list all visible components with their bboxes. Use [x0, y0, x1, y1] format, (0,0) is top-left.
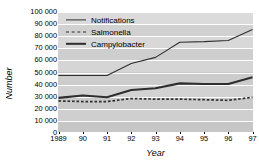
legend-line-swatch-icon [66, 27, 86, 37]
y-tick-label: 80 000 [14, 32, 57, 40]
y-tick-label: 90 000 [14, 20, 57, 28]
legend-label: Campylobacter [91, 40, 145, 49]
y-tick-label: 70 000 [14, 44, 57, 52]
x-axis-title: Year [58, 148, 253, 158]
x-tick-mark [180, 132, 181, 134]
x-tick-mark [156, 132, 157, 134]
x-tick-label: 91 [103, 134, 111, 143]
legend-item-campylobacter: Campylobacter [66, 38, 186, 50]
x-axis-tick-labels: 19899091929394959697 [58, 134, 253, 146]
x-tick-label: 96 [224, 134, 232, 143]
x-tick-mark [253, 132, 254, 134]
x-tick-mark [228, 132, 229, 134]
y-tick-label: 60 000 [14, 56, 57, 64]
x-tick-label: 94 [176, 134, 184, 143]
legend-line-swatch-icon [66, 39, 86, 49]
y-tick-label: 100 000 [14, 8, 57, 16]
x-tick-label: 97 [248, 134, 256, 143]
x-tick-mark [107, 132, 108, 134]
x-tick-label: 1989 [50, 134, 66, 143]
x-tick-label: 95 [200, 134, 208, 143]
x-tick-label: 92 [127, 134, 135, 143]
y-tick-label: 40 000 [14, 81, 57, 89]
y-tick-label: 50 000 [14, 69, 57, 77]
y-tick-label: 30 000 [14, 93, 57, 101]
y-axis-tick-labels: 010 00020 00030 00040 00050 00060 00070 … [14, 12, 57, 133]
x-tick-mark [131, 132, 132, 134]
y-tick-label: 20 000 [14, 105, 57, 113]
legend-item-salmonella: Salmonella [66, 26, 186, 38]
x-tick-mark [83, 132, 84, 134]
x-tick-label: 90 [79, 134, 87, 143]
legend: NotificationsSalmonellaCampylobacter [66, 14, 186, 50]
legend-item-notifications: Notifications [66, 14, 186, 26]
x-tick-mark [204, 132, 205, 134]
chart-figure: Number 010 00020 00030 00040 00050 00060… [0, 0, 259, 167]
legend-label: Salmonella [91, 28, 131, 37]
legend-line-swatch-icon [66, 15, 86, 25]
series-line-campylobacter [59, 77, 253, 98]
x-tick-mark [59, 132, 60, 134]
x-tick-label: 93 [151, 134, 159, 143]
y-tick-label: 10 000 [14, 117, 57, 125]
series-line-salmonella [59, 97, 253, 101]
legend-label: Notifications [91, 16, 135, 25]
